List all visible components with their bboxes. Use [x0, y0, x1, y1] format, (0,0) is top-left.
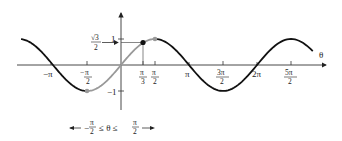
- x-label-five-pi-half: 5π 2: [284, 68, 297, 86]
- svg-text:π: π: [152, 68, 156, 77]
- svg-text:π: π: [140, 68, 144, 77]
- sqrt3-numerator: √3: [91, 33, 99, 42]
- svg-text:3π: 3π: [217, 68, 225, 77]
- svg-text:π: π: [90, 118, 94, 127]
- svg-text:−: −: [84, 123, 89, 133]
- y-label-one: 1: [111, 34, 116, 44]
- x-label-neg-pi-half: − π 2: [80, 68, 92, 86]
- domain-label: − π 2 ≤ θ ≤ π 2: [69, 118, 155, 136]
- svg-text:2: 2: [86, 77, 90, 86]
- svg-text:2: 2: [133, 127, 137, 136]
- svg-text:π: π: [85, 68, 89, 77]
- x-label-two-pi: 2π: [252, 69, 262, 79]
- svg-text:2: 2: [90, 127, 94, 136]
- sqrt3-denominator: 2: [94, 43, 98, 52]
- svg-text:π: π: [133, 118, 137, 127]
- svg-text:2: 2: [288, 77, 292, 86]
- x-label-pi-third: π 3: [139, 68, 147, 86]
- point-pi-half: [153, 37, 158, 42]
- point-neg-pi-half: [85, 89, 90, 94]
- x-label-neg-pi: −π: [43, 69, 53, 79]
- point-pi-third: [140, 40, 145, 45]
- x-label-pi: π: [185, 69, 190, 79]
- x-label-three-pi-half: 3π 2: [216, 68, 229, 86]
- x-label-pi-half: π 2: [151, 68, 159, 86]
- svg-text:−: −: [80, 68, 84, 77]
- theta-axis-label: θ: [319, 50, 323, 60]
- svg-text:2: 2: [153, 77, 157, 86]
- svg-text:2: 2: [220, 77, 224, 86]
- sine-graph: 1 −1 √3 2 −π − π 2 π 3 π 2 π 3π 2 2π 5π …: [0, 0, 342, 141]
- svg-text:5π: 5π: [285, 68, 293, 77]
- y-label-neg-one: −1: [107, 87, 117, 97]
- svg-text:3: 3: [141, 77, 145, 86]
- x-ticks: [51, 61, 291, 65]
- svg-text:≤ θ ≤: ≤ θ ≤: [99, 123, 118, 133]
